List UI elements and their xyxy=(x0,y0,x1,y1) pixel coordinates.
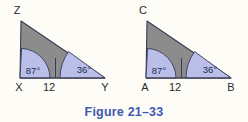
triangle-left-angle-label-36: 36° xyxy=(77,64,92,75)
triangle-right-vertex-b-label: B xyxy=(227,81,234,93)
triangle-left-angle-label-87: 87° xyxy=(26,65,41,76)
triangle-left-apex-label: Z xyxy=(14,4,21,16)
triangle-left-base-length-label: 12 xyxy=(43,81,55,93)
figure-caption: Figure 21–33 xyxy=(0,105,248,119)
triangle-left-vertex-x-label: X xyxy=(15,81,23,93)
triangle-right-angle-label-36: 36° xyxy=(203,64,218,75)
triangle-right-angle-label-87: 87° xyxy=(152,65,167,76)
triangle-left: Z X Y 12 87° 36° xyxy=(14,4,110,93)
triangle-right-apex-label: C xyxy=(139,4,147,16)
triangle-right-base-length-label: 12 xyxy=(169,81,181,93)
figure-diagram: Z X Y 12 87° 36° C A B 12 87° 36° xyxy=(0,0,248,122)
triangle-left-vertex-y-label: Y xyxy=(101,81,109,93)
triangle-right-vertex-a-label: A xyxy=(141,81,149,93)
triangle-right: C A B 12 87° 36° xyxy=(139,4,235,93)
figure-container: Z X Y 12 87° 36° C A B 12 87° 36° xyxy=(0,0,248,122)
